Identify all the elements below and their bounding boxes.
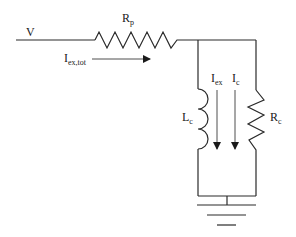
iex-label: Iex [211, 71, 223, 87]
rp-label: Rp [122, 11, 134, 27]
ic-label: Ic [232, 71, 240, 87]
inductor-lc [198, 89, 208, 149]
circuit-diagram: V Rp Iex,tot Lc Rc Iex Ic [0, 0, 296, 237]
lc-label: Lc [182, 110, 193, 126]
series-resistor-rp [95, 32, 198, 48]
voltage-label: V [26, 25, 35, 39]
total-current-label: Iex,tot [64, 51, 87, 67]
rc-label: Rc [270, 110, 282, 126]
ground-icon [197, 196, 256, 225]
shunt-resistor-rc [248, 90, 264, 196]
